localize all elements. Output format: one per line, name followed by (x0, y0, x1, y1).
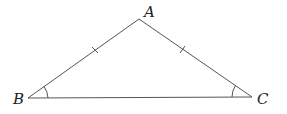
angle-arc-b (44, 87, 48, 98)
vertex-label-b: B (12, 90, 24, 108)
side-bc (28, 97, 252, 98)
angle-arc-c (232, 86, 236, 98)
side-ac (139, 19, 252, 97)
triangle-diagram: A B C (0, 0, 287, 114)
vertex-label-c: C (257, 90, 269, 108)
vertex-label-a: A (142, 3, 155, 21)
tick-mark-ac (180, 46, 185, 53)
side-ab (28, 19, 139, 98)
